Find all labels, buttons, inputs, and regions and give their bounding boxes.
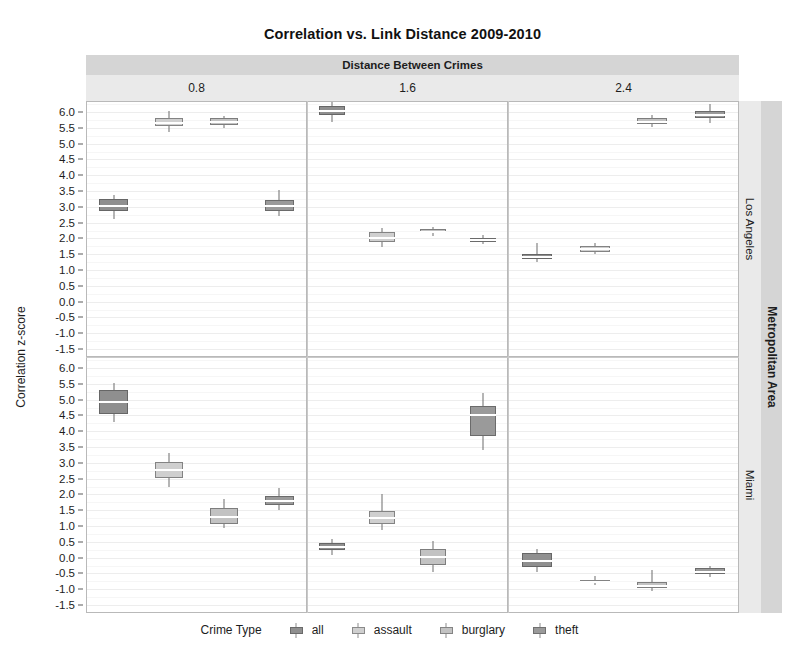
y-tick-mark — [78, 143, 83, 144]
boxplot-burglary[interactable] — [420, 357, 446, 613]
median-line — [319, 546, 345, 548]
y-tick-label: -1.5 — [55, 343, 75, 355]
facet-col-label-0.8: 0.8 — [86, 75, 307, 101]
y-tick-mark — [78, 383, 83, 384]
y-tick-label: 1.0 — [59, 264, 75, 276]
y-tick-mark — [78, 222, 83, 223]
y-tick-label: 0.5 — [59, 536, 75, 548]
boxplot-burglary[interactable] — [420, 101, 446, 357]
median-line — [470, 414, 496, 416]
boxplot-assault[interactable] — [369, 101, 395, 357]
boxplot-all[interactable] — [99, 101, 128, 357]
boxplot-burglary[interactable] — [637, 101, 667, 357]
whisker-lower — [113, 414, 114, 423]
legend-item-all[interactable]: all — [288, 623, 324, 638]
boxplot-assault[interactable] — [580, 101, 610, 357]
median-line — [155, 122, 184, 124]
legend-item-theft[interactable]: theft — [531, 623, 578, 638]
facet-row-strip-outer-label: Metropolitan Area — [765, 306, 779, 408]
boxplot-theft[interactable] — [695, 101, 725, 357]
whisker-lower — [168, 478, 169, 487]
facet-row-strip-outer: Metropolitan Area — [761, 101, 782, 613]
legend-label: burglary — [462, 623, 505, 637]
boxplot-assault[interactable] — [580, 357, 610, 613]
boxplot-all[interactable] — [522, 101, 552, 357]
whisker-lower — [432, 233, 433, 236]
median-line — [522, 560, 552, 562]
y-tick-mark — [78, 589, 83, 590]
boxplot-all[interactable] — [319, 357, 345, 613]
legend-label: all — [312, 623, 324, 637]
whisker-lower — [224, 524, 225, 528]
whisker-upper — [536, 243, 537, 254]
y-tick-mark — [78, 301, 83, 302]
legend-key-box — [533, 627, 546, 634]
y-tick-label: 0.0 — [59, 552, 75, 564]
median-line — [420, 556, 446, 558]
y-tick-mark — [78, 494, 83, 495]
y-tick-mark — [78, 526, 83, 527]
panel-miami-0.8 — [86, 357, 307, 613]
boxplot-assault[interactable] — [369, 357, 395, 613]
boxplot-all[interactable] — [99, 357, 128, 613]
facet-row-label: Los Angeles — [744, 198, 756, 261]
boxplot-theft[interactable] — [265, 357, 294, 613]
boxplot-assault[interactable] — [155, 101, 184, 357]
legend-title: Crime Type — [201, 623, 262, 637]
boxplot-all[interactable] — [522, 357, 552, 613]
y-tick-label: 6.0 — [59, 106, 75, 118]
y-tick-mark — [78, 254, 83, 255]
legend-key-icon — [438, 623, 455, 638]
y-tick-mark — [78, 462, 83, 463]
facet-col-header-row: 0.81.62.4 — [86, 75, 739, 101]
boxplot-theft[interactable] — [265, 101, 294, 357]
median-line — [155, 469, 184, 471]
whisker-lower — [594, 583, 595, 585]
legend-label: assault — [374, 623, 412, 637]
y-axis-title: Correlation z-score — [10, 101, 32, 613]
y-tick-mark — [78, 349, 83, 350]
boxplot-all[interactable] — [319, 101, 345, 357]
legend-item-assault[interactable]: assault — [350, 623, 412, 638]
y-tick-mark — [78, 510, 83, 511]
y-tick-label: -1.0 — [55, 327, 75, 339]
legend-item-burglary[interactable]: burglary — [438, 623, 505, 638]
boxplot-burglary[interactable] — [210, 101, 239, 357]
legend-key-icon — [288, 623, 305, 638]
y-tick-label: 5.0 — [59, 138, 75, 150]
facet-col-label-1.6: 1.6 — [307, 75, 508, 101]
boxplot-assault[interactable] — [155, 357, 184, 613]
median-line — [210, 121, 239, 123]
y-tick-label: 5.5 — [59, 122, 75, 134]
boxplot-burglary[interactable] — [637, 357, 667, 613]
whisker-upper — [224, 499, 225, 508]
y-tick-mark — [78, 573, 83, 574]
whisker-lower — [332, 550, 333, 554]
whisker-lower — [652, 124, 653, 127]
boxplot-theft[interactable] — [470, 357, 496, 613]
median-line — [420, 231, 446, 233]
y-tick-mark — [78, 368, 83, 369]
y-tick-label: 6.0 — [59, 362, 75, 374]
median-line — [637, 585, 667, 587]
legend-key-icon — [350, 623, 367, 638]
y-tick-label: 3.0 — [59, 457, 75, 469]
whisker-upper — [279, 190, 280, 199]
y-tick-label: 2.0 — [59, 488, 75, 500]
whisker-lower — [113, 211, 114, 219]
boxplot-burglary[interactable] — [210, 357, 239, 613]
median-line — [99, 205, 128, 207]
facet-col-label-2.4: 2.4 — [508, 75, 739, 101]
y-tick-label: 1.5 — [59, 248, 75, 260]
whisker-lower — [279, 505, 280, 511]
whisker-lower — [710, 118, 711, 123]
whisker-upper — [432, 541, 433, 550]
whisker-upper — [482, 393, 483, 406]
y-tick-mark — [78, 206, 83, 207]
y-tick-label: -1.0 — [55, 583, 75, 595]
boxplot-theft[interactable] — [695, 357, 725, 613]
chart-root: Correlation vs. Link Distance 2009-2010 … — [0, 0, 805, 658]
whisker-upper — [168, 453, 169, 462]
legend-key-icon — [531, 623, 548, 638]
boxplot-theft[interactable] — [470, 101, 496, 357]
